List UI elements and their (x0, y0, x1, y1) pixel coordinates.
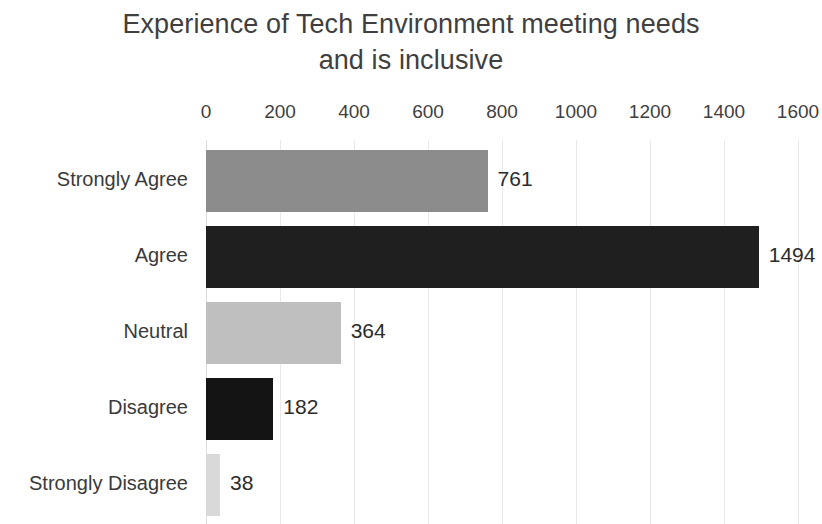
gridline-1400 (724, 140, 725, 524)
bar-value-label-strongly-agree: 761 (498, 167, 533, 191)
gridline-1600 (798, 140, 799, 524)
bar-value-label-disagree: 182 (283, 395, 318, 419)
bar-value-label-strongly-disagree: 38 (230, 471, 253, 495)
bar-agree (206, 226, 759, 288)
x-tick-label-1200: 1200 (629, 99, 671, 125)
category-label-disagree: Disagree (0, 396, 188, 419)
category-label-strongly-disagree: Strongly Disagree (0, 472, 188, 495)
x-tick-label-200: 200 (264, 99, 296, 125)
x-tick-label-0: 0 (201, 99, 212, 125)
gridline-800 (502, 140, 503, 524)
x-tick-label-1000: 1000 (555, 99, 597, 125)
chart-title-line-1: Experience of Tech Environment meeting n… (122, 9, 699, 39)
x-tick-label-400: 400 (338, 99, 370, 125)
chart-title: Experience of Tech Environment meeting n… (0, 6, 822, 78)
category-label-neutral: Neutral (0, 320, 188, 343)
bar-disagree (206, 378, 273, 440)
x-tick-label-800: 800 (486, 99, 518, 125)
bar-neutral (206, 302, 341, 364)
x-tick-label-1400: 1400 (703, 99, 745, 125)
plot-area: 761149436418238 (206, 140, 798, 524)
gridline-1200 (650, 140, 651, 524)
chart-title-line-2: and is inclusive (0, 42, 822, 78)
bar-value-label-neutral: 364 (351, 319, 386, 343)
bar-value-label-agree: 1494 (769, 243, 816, 267)
category-label-agree: Agree (0, 244, 188, 267)
x-tick-label-600: 600 (412, 99, 444, 125)
category-label-strongly-agree: Strongly Agree (0, 168, 188, 191)
bar-chart: Experience of Tech Environment meeting n… (0, 0, 822, 524)
x-tick-label-1600: 1600 (777, 99, 819, 125)
x-axis-tick-labels: 02004006008001000120014001600 (206, 99, 798, 125)
gridline-1000 (576, 140, 577, 524)
bar-strongly-agree (206, 150, 488, 212)
bar-strongly-disagree (206, 454, 220, 516)
y-axis-category-labels: Strongly AgreeAgreeNeutralDisagreeStrong… (0, 140, 188, 524)
